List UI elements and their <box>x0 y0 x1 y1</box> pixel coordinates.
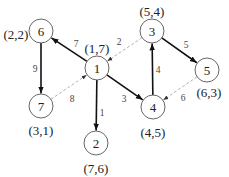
edge-weight-label: 1 <box>100 108 105 118</box>
node-5: 5(6,3) <box>195 58 221 100</box>
nodes-layer: 1(1,7)2(7,6)3(5,4)4(4,5)5(6,3)6(2,2)7(3,… <box>4 4 222 176</box>
node-coordinate-label: (4,5) <box>141 125 166 140</box>
edge-1-6 <box>51 38 87 61</box>
node-label: 3 <box>149 24 156 39</box>
edge-weight-label: 7 <box>74 39 79 49</box>
node-2: 2(7,6) <box>84 131 109 176</box>
node-6: 6(2,2) <box>4 19 53 43</box>
node-coordinate-label: (3,1) <box>29 123 54 138</box>
node-label: 4 <box>150 100 157 115</box>
edges-layer: 713945286 <box>33 37 197 131</box>
node-coordinate-label: (2,2) <box>4 27 29 42</box>
edge-weight-label: 3 <box>122 94 127 104</box>
node-3: 3(5,4) <box>140 4 165 44</box>
edge-weight-label: 8 <box>70 94 75 104</box>
node-label: 6 <box>38 24 45 39</box>
node-label: 2 <box>93 136 100 151</box>
node-coordinate-label: (5,4) <box>140 4 165 19</box>
edge-3-5 <box>162 38 197 63</box>
node-coordinate-label: (7,6) <box>84 161 109 176</box>
node-7: 7(3,1) <box>29 94 54 138</box>
edge-weight-label: 9 <box>33 64 38 74</box>
node-coordinate-label: (6,3) <box>197 85 222 100</box>
edge-3-1 <box>107 38 142 61</box>
edge-1-2 <box>96 80 97 131</box>
edge-weight-label: 6 <box>181 93 186 103</box>
edge-weight-label: 4 <box>156 65 161 75</box>
node-4: 4(4,5) <box>141 95 166 140</box>
node-coordinate-label: (1,7) <box>85 41 110 56</box>
node-label: 1 <box>94 61 101 76</box>
edge-weight-label: 5 <box>184 40 189 50</box>
node-label: 7 <box>38 99 45 114</box>
graph-diagram: 713945286 1(1,7)2(7,6)3(5,4)4(4,5)5(6,3)… <box>0 0 229 177</box>
edge-4-3 <box>152 43 153 95</box>
node-1: 1(1,7) <box>85 41 110 81</box>
node-label: 5 <box>204 63 211 78</box>
edge-weight-label: 2 <box>117 37 122 47</box>
